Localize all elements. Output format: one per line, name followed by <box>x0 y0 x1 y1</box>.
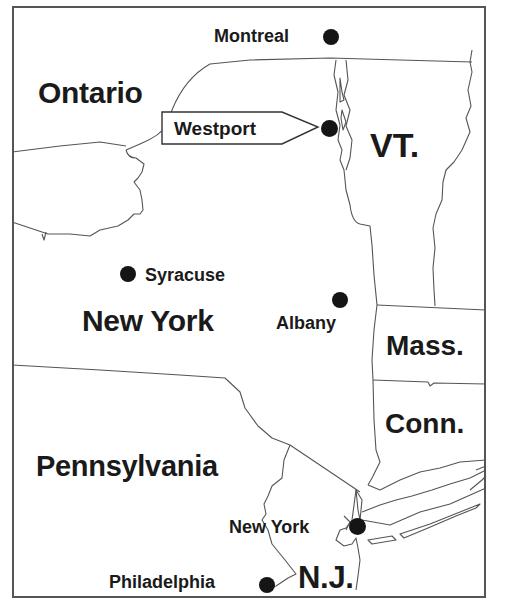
city-marker-syracuse <box>120 266 136 282</box>
map: Ontario VT. New York Mass. Conn. Pennsyl… <box>0 0 505 613</box>
city-label-montreal: Montreal <box>214 27 289 45</box>
ny-vt-border <box>344 170 377 305</box>
city-marker-new-york-city <box>349 518 366 535</box>
city-marker-philadelphia <box>259 577 275 593</box>
city-label-westport: Westport <box>174 119 256 138</box>
vt-mass-border <box>377 305 486 310</box>
city-marker-montreal <box>323 29 339 45</box>
region-label-ontario: Ontario <box>38 78 143 108</box>
city-marker-albany <box>332 292 348 308</box>
vt-nh-border <box>433 50 472 306</box>
ny-pa-border <box>12 365 290 445</box>
city-label-new-york-city: New York <box>229 518 309 536</box>
mass-conn-border <box>373 380 486 386</box>
region-label-vermont: VT. <box>370 128 419 162</box>
region-label-massachusetts: Mass. <box>386 332 464 360</box>
city-marker-westport <box>321 120 338 137</box>
city-label-philadelphia: Philadelphia <box>109 573 215 591</box>
region-label-new-york: New York <box>82 306 214 336</box>
region-label-new-jersey: N.J. <box>298 562 354 593</box>
ny-nj-border <box>290 445 360 492</box>
city-label-albany: Albany <box>276 314 336 332</box>
region-label-pennsylvania: Pennsylvania <box>36 452 218 481</box>
region-label-connecticut: Conn. <box>385 410 464 438</box>
city-label-syracuse: Syracuse <box>145 266 225 284</box>
northern-border <box>172 58 472 110</box>
